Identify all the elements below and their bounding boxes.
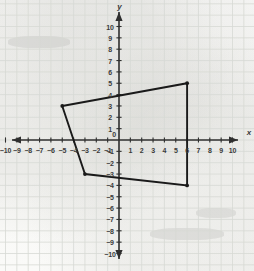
y-tick-label: −5: [106, 193, 114, 200]
x-tick-label: 6: [185, 146, 189, 153]
x-tick-label: −10: [0, 146, 11, 153]
x-tick-label: −3: [81, 146, 89, 153]
y-tick-label: −8: [106, 227, 114, 234]
x-tick-label: −8: [24, 146, 32, 153]
x-tick-label: −4: [70, 146, 78, 153]
y-tick-label: 2: [108, 114, 112, 121]
x-axis-name: x: [247, 129, 251, 137]
x-tick-label: 2: [140, 146, 144, 153]
x-tick-label: −7: [36, 146, 44, 153]
y-tick-label: 3: [108, 103, 112, 110]
tick-labels: −10−9−8−7−6−5−4−3−2−11234567891010987654…: [0, 0, 254, 271]
y-tick-label: −2: [106, 159, 114, 166]
y-tick-label: −3: [106, 171, 114, 178]
y-tick-label: −6: [106, 205, 114, 212]
x-tick-label: −9: [13, 146, 21, 153]
origin-label: 0: [112, 130, 116, 137]
x-tick-label: −6: [47, 146, 55, 153]
y-tick-label: −7: [106, 216, 114, 223]
x-tick-label: 7: [197, 146, 201, 153]
x-tick-label: −5: [59, 146, 67, 153]
x-tick-label: 9: [219, 146, 223, 153]
x-tick-label: −2: [93, 146, 101, 153]
x-tick-label: 10: [229, 146, 236, 153]
y-tick-label: 8: [108, 46, 112, 53]
x-tick-label: 5: [174, 146, 178, 153]
y-tick-label: 6: [108, 68, 112, 75]
y-tick-label: 7: [108, 57, 112, 64]
x-tick-label: 1: [128, 146, 132, 153]
y-tick-label: 5: [108, 80, 112, 87]
coordinate-plane-figure: −10−9−8−7−6−5−4−3−2−11234567891010987654…: [0, 0, 254, 271]
y-axis-name: y: [117, 3, 121, 11]
y-tick-label: 4: [108, 91, 112, 98]
y-tick-label: −1: [106, 148, 114, 155]
y-tick-label: 9: [108, 34, 112, 41]
x-tick-label: 8: [208, 146, 212, 153]
x-tick-label: 4: [163, 146, 167, 153]
y-tick-label: −4: [106, 182, 114, 189]
y-tick-label: −10: [104, 250, 115, 257]
y-tick-label: 10: [106, 23, 113, 30]
x-tick-label: 3: [151, 146, 155, 153]
y-tick-label: −9: [106, 239, 114, 246]
